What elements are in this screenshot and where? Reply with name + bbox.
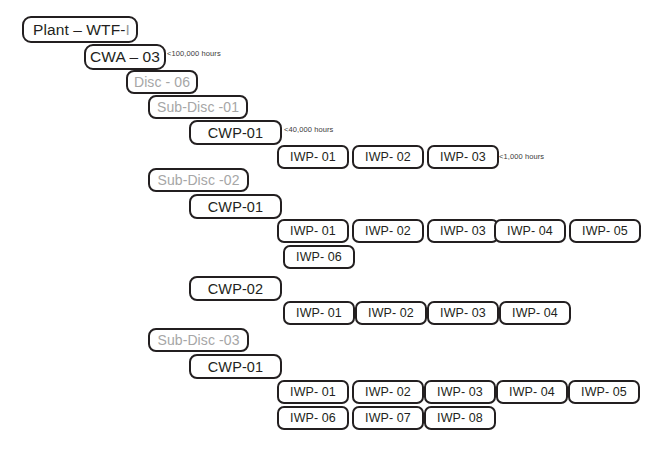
wbs-node-sub-disc-02[interactable]: Sub-Disc -02 <box>148 168 249 192</box>
duration-annot-cwa: <100,000 hours <box>167 49 221 58</box>
wbs-node-sub-disc-03[interactable]: Sub-Disc -03 <box>148 328 249 352</box>
wbs-node-a-iwp-01[interactable]: IWP- 01 <box>277 145 349 169</box>
duration-annot-iwp: <1,000 hours <box>499 152 544 161</box>
wbs-node-b-iwp-04[interactable]: IWP- 04 <box>494 219 566 243</box>
wbs-node-label: IWP- 01 <box>290 224 336 238</box>
wbs-node-label: CWP-01 <box>208 125 263 141</box>
wbs-node-b-iwp-06[interactable]: IWP- 06 <box>283 245 355 269</box>
wbs-node-c-iwp-04[interactable]: IWP- 04 <box>499 301 571 325</box>
wbs-node-d-iwp-01[interactable]: IWP- 01 <box>277 380 349 404</box>
wbs-node-cwp-01-c[interactable]: CWP-01 <box>189 354 282 379</box>
wbs-node-label: Sub-Disc -03 <box>157 332 239 348</box>
wbs-node-label: IWP- 01 <box>290 150 336 164</box>
wbs-node-sub-disc-01[interactable]: Sub-Disc -01 <box>148 95 248 119</box>
wbs-node-b-iwp-01[interactable]: IWP- 01 <box>277 219 349 243</box>
wbs-node-label: IWP- 06 <box>296 250 342 264</box>
wbs-node-label: IWP- 04 <box>509 385 555 399</box>
wbs-node-label: CWP-02 <box>208 281 263 297</box>
wbs-node-label: IWP- 02 <box>368 306 414 320</box>
wbs-node-cwp-02[interactable]: CWP-02 <box>189 276 282 301</box>
wbs-node-label: Plant – WTF- <box>33 21 126 39</box>
wbs-node-plant[interactable]: Plant – WTF-I <box>22 16 138 43</box>
wbs-node-label: Sub-Disc -02 <box>157 172 239 188</box>
wbs-node-label: CWP-01 <box>208 199 263 215</box>
wbs-node-label: IWP- 01 <box>290 385 336 399</box>
wbs-node-disc-06[interactable]: Disc - 06 <box>126 70 198 94</box>
wbs-node-label: IWP- 04 <box>507 224 553 238</box>
wbs-node-d-iwp-02[interactable]: IWP- 02 <box>352 380 424 404</box>
wbs-node-cwa-03[interactable]: CWA – 03 <box>84 44 166 70</box>
wbs-node-b-iwp-05[interactable]: IWP- 05 <box>569 219 641 243</box>
wbs-diagram-canvas: Plant – WTF-ICWA – 03Disc - 06Sub-Disc -… <box>0 0 665 453</box>
wbs-node-d-iwp-06[interactable]: IWP- 06 <box>277 406 349 430</box>
wbs-node-label: IWP- 05 <box>582 224 628 238</box>
wbs-node-label: IWP- 02 <box>365 224 411 238</box>
wbs-node-label: IWP- 02 <box>365 385 411 399</box>
wbs-node-d-iwp-08[interactable]: IWP- 08 <box>424 406 496 430</box>
wbs-node-d-iwp-04[interactable]: IWP- 04 <box>496 380 568 404</box>
wbs-node-label: IWP- 01 <box>296 306 342 320</box>
wbs-node-label: IWP- 02 <box>365 150 411 164</box>
wbs-node-c-iwp-02[interactable]: IWP- 02 <box>355 301 427 325</box>
wbs-node-a-iwp-02[interactable]: IWP- 02 <box>352 145 424 169</box>
wbs-node-label: IWP- 06 <box>290 411 336 425</box>
wbs-node-label: IWP- 05 <box>581 385 627 399</box>
wbs-node-label: IWP- 03 <box>440 306 486 320</box>
wbs-node-b-iwp-03[interactable]: IWP- 03 <box>427 219 499 243</box>
wbs-node-c-iwp-03[interactable]: IWP- 03 <box>427 301 499 325</box>
wbs-node-label: CWP-01 <box>208 359 263 375</box>
wbs-node-label: Disc - 06 <box>134 74 190 90</box>
duration-annot-cwp: <40,000 hours <box>284 125 333 134</box>
wbs-node-d-iwp-07[interactable]: IWP- 07 <box>352 406 424 430</box>
wbs-node-label: CWA – 03 <box>90 48 160 66</box>
wbs-node-label: IWP- 07 <box>365 411 411 425</box>
wbs-node-label-suffix: I <box>126 21 130 39</box>
wbs-node-cwp-01-a[interactable]: CWP-01 <box>189 120 282 145</box>
wbs-node-d-iwp-05[interactable]: IWP- 05 <box>568 380 640 404</box>
wbs-node-b-iwp-02[interactable]: IWP- 02 <box>352 219 424 243</box>
wbs-node-label: IWP- 03 <box>440 150 486 164</box>
wbs-node-label: IWP- 04 <box>512 306 558 320</box>
wbs-node-d-iwp-03[interactable]: IWP- 03 <box>424 380 496 404</box>
wbs-node-cwp-01-b[interactable]: CWP-01 <box>189 194 282 219</box>
wbs-node-label: Sub-Disc -01 <box>157 99 239 115</box>
wbs-node-a-iwp-03[interactable]: IWP- 03 <box>427 145 499 169</box>
wbs-node-label: IWP- 08 <box>437 411 483 425</box>
wbs-node-label: IWP- 03 <box>437 385 483 399</box>
wbs-node-label: IWP- 03 <box>440 224 486 238</box>
wbs-node-c-iwp-01[interactable]: IWP- 01 <box>283 301 355 325</box>
